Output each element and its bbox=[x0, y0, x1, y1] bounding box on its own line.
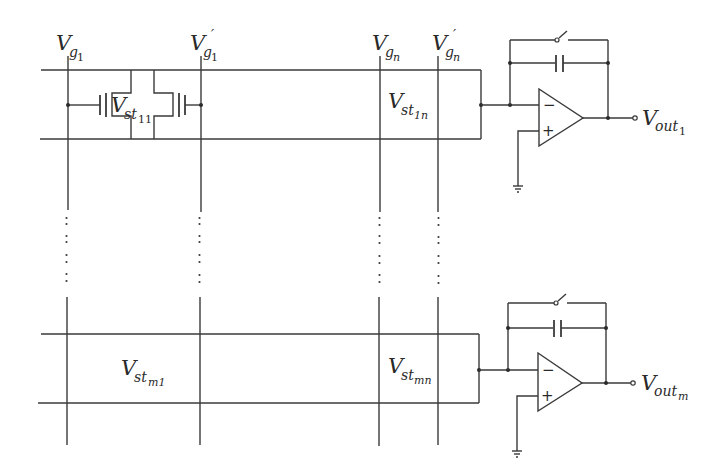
row-m: V st m1 V st mn bbox=[38, 294, 688, 457]
opamp-icon: − + bbox=[539, 89, 583, 146]
column-label-vgn: V g n bbox=[372, 31, 400, 64]
cell-label-vst11: V st 11 bbox=[111, 93, 152, 126]
output-terminal-1 bbox=[633, 116, 637, 120]
reset-switch-icon bbox=[554, 294, 566, 305]
integrator-row-1: − + bbox=[481, 31, 637, 192]
svg-text:−: − bbox=[542, 361, 555, 379]
reset-switch-icon bbox=[555, 31, 567, 42]
output-label-voutm: V out m bbox=[641, 371, 688, 403]
svg-text:11: 11 bbox=[138, 113, 152, 126]
svg-text:m: m bbox=[678, 390, 688, 403]
svg-text:mn: mn bbox=[414, 374, 432, 387]
output-terminal-m bbox=[631, 381, 635, 385]
output-label-vout1: V out 1 bbox=[642, 106, 686, 138]
opamp-icon: − + bbox=[538, 353, 582, 411]
svg-text:1: 1 bbox=[77, 51, 84, 64]
cell-label-vst1n: V st 1n bbox=[388, 89, 428, 122]
column-label-vg1: V g 1 bbox=[56, 31, 84, 64]
row-1: V st 11 V st 1n bbox=[40, 31, 686, 192]
svg-text:+: + bbox=[542, 122, 555, 140]
svg-text:n: n bbox=[453, 51, 460, 64]
column-label-vg1-prime: V g 1 ′ bbox=[190, 27, 218, 64]
feedback-capacitor-icon bbox=[556, 55, 563, 72]
svg-text:st: st bbox=[401, 367, 414, 383]
svg-text:1: 1 bbox=[679, 125, 686, 138]
transistor-right-icon bbox=[154, 70, 203, 139]
svg-text:+: + bbox=[541, 387, 554, 405]
svg-text:st: st bbox=[401, 102, 414, 118]
ellipsis-col-4 bbox=[437, 217, 439, 284]
ellipsis-col-3 bbox=[378, 217, 380, 283]
ground-icon bbox=[512, 451, 522, 457]
gate-lines-upper bbox=[68, 56, 438, 212]
integrator-row-m: − + bbox=[479, 294, 635, 457]
column-label-vgn-prime: V g n ′ bbox=[432, 27, 460, 64]
vertical-ellipsis bbox=[65, 217, 439, 284]
cell-label-vstmn: V st mn bbox=[388, 354, 432, 387]
svg-text:st: st bbox=[134, 369, 147, 385]
svg-text:n: n bbox=[393, 51, 400, 64]
svg-text:′: ′ bbox=[211, 27, 215, 43]
svg-text:out: out bbox=[655, 118, 678, 134]
svg-text:st: st bbox=[124, 106, 137, 122]
svg-text:1: 1 bbox=[211, 51, 218, 64]
feedback-capacitor-icon bbox=[554, 320, 561, 337]
svg-text:′: ′ bbox=[453, 27, 457, 43]
ellipsis-col-2 bbox=[198, 217, 200, 283]
svg-text:out: out bbox=[654, 383, 677, 399]
ground-icon bbox=[513, 186, 523, 192]
svg-text:−: − bbox=[543, 96, 556, 114]
crossbar-integrator-circuit-diagram: V g 1 V g 1 ′ V g n V g n ′ bbox=[0, 0, 719, 475]
svg-text:1n: 1n bbox=[414, 109, 428, 122]
cell-label-vstm1: V st m1 bbox=[121, 356, 165, 389]
ellipsis-col-1 bbox=[65, 217, 67, 282]
svg-text:m1: m1 bbox=[148, 376, 165, 389]
